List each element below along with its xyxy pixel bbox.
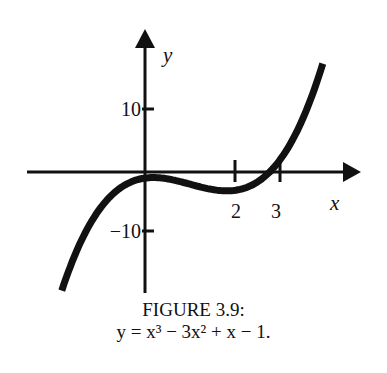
x-tick-label-3: 3 — [271, 200, 281, 222]
y-tick-label-10: 10 — [121, 98, 141, 120]
function-plot: y x 2 3 10 −10 — [0, 0, 387, 300]
x-tick-label-2: 2 — [231, 200, 241, 222]
y-axis-label: y — [161, 43, 173, 67]
y-tick-label-neg10: −10 — [110, 220, 141, 242]
y-axis-arrow-icon — [135, 29, 155, 48]
x-axis-arrow-icon — [343, 162, 361, 182]
x-axis-label: x — [329, 191, 340, 215]
figure-equation: y = x³ − 3x² + x − 1. — [0, 321, 387, 343]
figure-caption-label: FIGURE 3.9: — [0, 299, 387, 321]
cubic-curve — [62, 64, 323, 291]
